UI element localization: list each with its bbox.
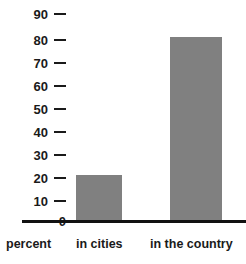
y-axis-tick-40: 40 <box>0 124 66 140</box>
y-tick-dash-icon <box>54 131 66 133</box>
y-axis-tick-10: 10 <box>0 193 66 209</box>
x-axis-label-in-cities: in cities <box>76 238 123 251</box>
y-tick-label-70: 70 <box>34 57 48 70</box>
y-tick-dash-icon <box>54 13 66 15</box>
y-axis-tick-50: 50 <box>0 101 66 117</box>
y-tick-label-90: 90 <box>34 8 48 21</box>
x-axis-baseline <box>22 220 246 223</box>
y-tick-dash-icon <box>54 62 66 64</box>
y-tick-dash-icon <box>54 177 66 179</box>
y-axis-tick-60: 60 <box>0 78 66 94</box>
y-axis-tick-20: 20 <box>0 170 66 186</box>
y-axis-tick-80: 80 <box>0 32 66 48</box>
x-axis-label-in-the-country: in the country <box>150 238 233 251</box>
y-axis-tick-70: 70 <box>0 55 66 71</box>
y-tick-label-20: 20 <box>34 172 48 185</box>
bar-in-the-country <box>170 37 222 221</box>
y-tick-label-60: 60 <box>34 80 48 93</box>
bar-chart: 90 80 70 60 50 40 30 20 10 0 perce <box>0 0 246 264</box>
x-axis-labels: percent in cities in the country <box>0 236 246 260</box>
bar-in-cities <box>76 175 122 221</box>
y-axis-row-label: percent <box>6 238 51 251</box>
y-tick-dash-icon <box>54 108 66 110</box>
y-axis-tick-30: 30 <box>0 147 66 163</box>
y-tick-dash-icon <box>54 200 66 202</box>
y-tick-dash-icon <box>54 154 66 156</box>
y-tick-label-30: 30 <box>34 149 48 162</box>
y-tick-label-10: 10 <box>34 195 48 208</box>
y-tick-label-80: 80 <box>34 34 48 47</box>
y-tick-label-50: 50 <box>34 103 48 116</box>
y-tick-dash-icon <box>54 39 66 41</box>
y-axis-tick-90: 90 <box>0 6 66 22</box>
y-tick-label-40: 40 <box>34 126 48 139</box>
y-tick-dash-icon <box>54 85 66 87</box>
